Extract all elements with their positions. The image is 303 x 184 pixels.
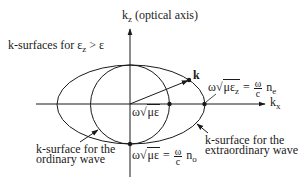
radicand: με (147, 104, 160, 119)
ordinary-wave-callout: k-surface for the ordinary wave (36, 144, 115, 164)
equals: = (243, 80, 250, 94)
k-point-dot (187, 78, 191, 82)
title-text: k-surfaces for ε (8, 38, 82, 52)
ordinary-callout-arrow (80, 130, 98, 142)
extraordinary-intercept-formula: ω√μεz = ωc ne (208, 79, 276, 98)
denominator: c (174, 157, 183, 166)
radicand: με (147, 147, 160, 162)
omega: ω (208, 80, 216, 94)
extraordinary-wave-callout: k-surface for the extraordinary wave (205, 135, 298, 155)
callout-line-2: ordinary wave (36, 154, 115, 164)
callout-line-2: extraordinary wave (205, 145, 298, 155)
k-surfaces-condition-label: k-surfaces for εz > ε (8, 40, 104, 55)
kx-subscript: x (276, 101, 281, 111)
kz-intercept-dot (128, 142, 132, 146)
optical-axis-note: (optical axis) (135, 8, 198, 22)
radicand: με (224, 80, 235, 94)
index-subscript: o (192, 154, 197, 164)
circle-kx-intercept-dot (167, 102, 171, 106)
equals: = (163, 148, 170, 162)
kz-subscript: z (128, 14, 132, 24)
k-label-text: k (193, 68, 200, 82)
omega-over-c: ωc (254, 79, 263, 98)
title-rest: > ε (86, 38, 104, 52)
extraordinary-callout-arrow (197, 124, 208, 133)
omega: ω (132, 148, 140, 162)
ellipse-kx-intercept-dot (202, 102, 206, 106)
circle-radius-label: ω√με (132, 107, 160, 118)
kz-axis-label: kz (optical axis) (122, 10, 198, 25)
radicand-subscript: z (235, 86, 239, 96)
k-vector-label: k (193, 70, 200, 81)
kx-axis-label: kx (270, 97, 281, 112)
ordinary-intercept-formula: ω√με = ωc no (132, 147, 197, 166)
index-subscript: e (272, 86, 276, 96)
k-vector-arrow (130, 81, 188, 105)
omega-over-c: ωc (174, 147, 183, 166)
omega: ω (132, 105, 140, 119)
denominator: c (254, 89, 263, 98)
